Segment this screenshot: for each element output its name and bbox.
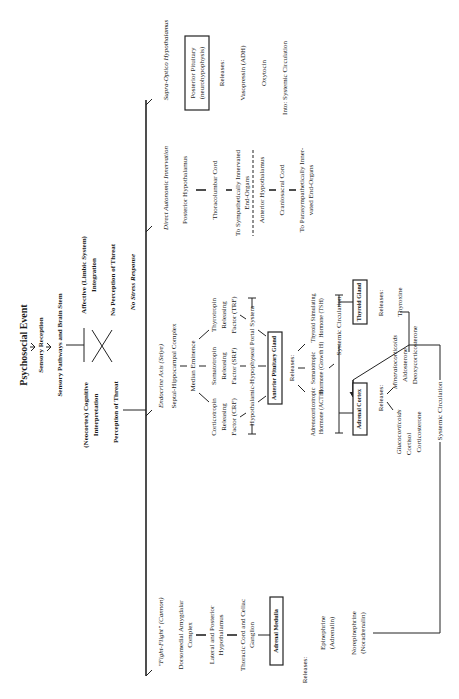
anterior-pituitary: Anterior Pituitary Gland [271,335,277,400]
growth-hormone-2: Hormone (Growth H) [318,342,325,394]
to-parasympathetic-organs-2: vated End-Organs [307,164,315,215]
connector [298,385,305,392]
cognitive-interpretation-2: Interpretation [92,394,100,437]
acth: Adrenocorticotropic [310,387,316,436]
trf-factor-3: Factor (TRF) [230,296,238,334]
connector [240,315,246,319]
amygdalar-complex-2: Complex [186,622,194,648]
thyroid-gland: Thyroid Gland [356,282,362,321]
tsh: Thyroid Stimulating [310,294,316,343]
endocrine-axis-title: Endocrine Axis (Selye) [157,343,165,409]
norepinephrine: Norepinephrine [350,611,358,655]
epinephrine: Epinephrine [319,616,327,650]
acth-2: Hormone (ACTH) [318,390,325,435]
sensory-reception: Sensory Reception [37,317,45,373]
to-sympathetic-organs-2: End-Organs [243,176,251,210]
connector [387,402,393,410]
tsh-2: Hormone (TSH) [318,298,325,338]
crf-factor-3: Factor (CRF) [230,398,238,436]
lateral-posterior-hypothalamus: Lateral and Posterior [208,605,216,664]
sensory-pathways: Sensory Pathways and Brain Stem [56,293,64,396]
crf-factor-2: Releasing [220,403,228,431]
no-stress-response: No Stress Response [129,254,137,311]
systemic-circulation-2: Systemic Circulation [436,381,444,440]
posterior-pituitary: Posterior Pituitary [189,47,197,99]
posterior-releases: Releases: [218,60,226,86]
median-eminence: Median Eminence [189,340,197,391]
growth-hormone: Somatotropic [310,352,316,385]
fight-flight-section: "Fight-Flight" (Cannon) Dorsomedial Amyg… [157,475,440,683]
corticosterone: Corticosterone [415,411,423,452]
perception-of-threat: Perception of Threat [112,380,120,442]
branch-tick [146,670,152,676]
stress-response-diagram: Psychosocial Event Sensory Reception Sen… [0,0,459,699]
anterior-hypothalamus: Anterior Hypothalamus [258,157,266,224]
posterior-hypothalamus: Posterior Hypothalamus [181,156,189,224]
supraoptic-section: Supra-Optico Hypothalamus Posterior Pitu… [162,19,289,115]
affective-integration-2: Integration [90,258,98,292]
connector [298,344,305,351]
connector [258,330,266,336]
portal-system: Hypothalamic-Hypophyseal Portal System [248,306,256,426]
autonomic-title: Direct Autonomic Innervation [162,146,170,231]
medulla-releases: Releases: [301,657,309,683]
into-systemic: Into: Systemic Circulation [281,41,289,115]
systemic-circulation-1: Systemic Circulation [335,296,343,355]
psychosocial-event: Psychosocial Event [18,304,29,386]
oxytocin: Oxytocin [260,59,268,86]
thoracic-cord-celiac: Thoracic Cord and Celiac [239,599,247,671]
srf-factor: Somatotropin [210,346,218,385]
endocrine-section: Endocrine Axis (Selye) Septal-Hippocampa… [157,280,444,475]
cortisol: Cortisol [405,433,413,456]
thoracic-cord-celiac-2: Ganglion [248,621,256,648]
systemic-return-line [373,475,440,633]
aldosterone: Aldosterone [401,348,409,382]
branch-tick [146,226,152,232]
crf-factor: Corticotropin [210,398,218,436]
srf-factor-3: Factor (SRF) [230,347,238,384]
cognitive-interpretation: (Neocortex) Cognitive [82,382,90,448]
to-parasympathetic-organs: To Parasympathetically Inner- [298,147,306,232]
deoxycorticosterone: Deoxycorticosterone [411,326,419,384]
glucocorticoids: Glucocorticoids [395,409,403,454]
origin-section: Psychosocial Event Sensory Reception Sen… [18,235,146,447]
connector [329,364,334,368]
arrow-down-icon [30,343,35,351]
supraoptic-title: Supra-Optico Hypothalamus [162,19,170,100]
arrow-down-icon [46,343,51,351]
no-perception-of-threat: No Perception of Threat [109,243,117,316]
autonomic-section: Direct Autonomic Innervation Posterior H… [162,146,315,237]
connector [258,396,266,402]
branch-tick [146,99,152,105]
lateral-posterior-hypothalamus-2: Hypothalamus [217,614,225,655]
pituitary-releases: Releases: [288,355,296,381]
trf-factor: Thyrotropin [210,298,218,332]
mineralocorticoids: Mineralocorticoids [391,335,399,390]
amygdalar-complex: Dorsomedial Amygdalar [177,600,185,670]
connector [199,330,209,339]
septal-hippocampal: Septal-Hippocampal Complex [170,323,178,408]
norepinephrine-2: (Noradrenalin) [359,612,367,654]
connector [199,393,209,402]
to-sympathetic-organs: To Sympathetically Innervated [234,149,242,236]
srf-factor-2: Releasing [220,352,228,380]
fight-flight-title: "Fight-Flight" (Cannon) [157,597,165,667]
vasopressin: Vasopressin (ADH) [239,45,247,101]
epinephrine-2: (Adrenalin) [328,616,336,649]
cortex-releases: Releases: [377,385,385,411]
thyroid-releases: Releases: [377,290,385,316]
adrenal-cortex: Adrenal Cortex [356,389,362,429]
trf-factor-2: Releasing [220,301,228,329]
connector [240,413,246,417]
thoracolumbar-cord: Thoracolumbar Cord [211,160,219,219]
neurohypophysis: (neurohypophysis) [198,46,206,99]
adrenal-medulla: Adrenal Medulla [273,609,279,653]
affective-integration: Affective (Limbic System) [80,235,88,313]
branch-tick [146,410,152,416]
craniosacral-cord: Craniosacral Cord [278,164,286,216]
